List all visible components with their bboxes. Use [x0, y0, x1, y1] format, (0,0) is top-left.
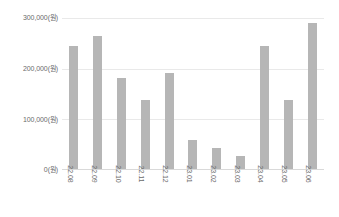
- bar-slot: [229, 18, 253, 169]
- x-label-slot: 22.09: [86, 172, 110, 217]
- bar-22-12[interactable]: [165, 73, 174, 169]
- x-label-slot: 22.08: [62, 172, 86, 217]
- x-label-slot: 23.06: [300, 172, 324, 217]
- x-axis-labels: 22.08 22.09 22.10 22.11 22.12 23.01 23.0…: [62, 172, 324, 217]
- x-label-slot: 23.02: [205, 172, 229, 217]
- bar-22-08[interactable]: [69, 46, 78, 169]
- bar-23-06[interactable]: [308, 23, 317, 169]
- bar-slot: [253, 18, 277, 169]
- x-label-slot: 23.03: [229, 172, 253, 217]
- bar-23-04[interactable]: [260, 46, 269, 169]
- x-label-slot: 22.12: [157, 172, 181, 217]
- y-axis-tick-label-200000: 200,000(원): [0, 65, 58, 73]
- x-axis-tick-label: 22.08: [66, 165, 74, 183]
- x-axis-tick-label: 23.05: [280, 165, 288, 183]
- x-axis-tick-label: 22.12: [161, 165, 169, 183]
- plot-area: [62, 18, 324, 170]
- bar-slot: [276, 18, 300, 169]
- x-label-slot: 23.05: [276, 172, 300, 217]
- bar-slot: [62, 18, 86, 169]
- x-axis-tick-label: 23.03: [233, 165, 241, 183]
- bar-slot: [86, 18, 110, 169]
- bar-slot: [157, 18, 181, 169]
- x-label-slot: 23.04: [253, 172, 277, 217]
- bar-slot: [300, 18, 324, 169]
- bar-22-11[interactable]: [141, 100, 150, 169]
- y-axis-tick-label-0: 0(원): [0, 166, 58, 174]
- bar-22-09[interactable]: [93, 36, 102, 169]
- bar-slot: [133, 18, 157, 169]
- x-axis-tick-label: 23.06: [304, 165, 312, 183]
- y-axis-tick-label-300000: 300,000(원): [0, 14, 58, 22]
- bar-23-05[interactable]: [284, 100, 293, 169]
- x-label-slot: 22.10: [110, 172, 134, 217]
- bar-slot: [110, 18, 134, 169]
- y-axis-tick-label-100000: 100,000(원): [0, 116, 58, 124]
- x-label-slot: 23.01: [181, 172, 205, 217]
- bar-slot: [181, 18, 205, 169]
- bar-series: [62, 18, 324, 169]
- bar-22-10[interactable]: [117, 78, 126, 169]
- x-axis-tick-label: 22.09: [90, 165, 98, 183]
- bar-chart: 300,000(원) 200,000(원) 100,000(원) 0(원) 22…: [0, 0, 339, 217]
- x-axis-tick-label: 22.10: [114, 165, 122, 183]
- x-axis-tick-label: 23.04: [256, 165, 264, 183]
- x-axis-tick-label: 23.01: [185, 165, 193, 183]
- x-label-slot: 22.11: [133, 172, 157, 217]
- x-axis-tick-label: 22.11: [137, 166, 145, 183]
- x-axis-tick-label: 23.02: [209, 165, 217, 183]
- bar-slot: [205, 18, 229, 169]
